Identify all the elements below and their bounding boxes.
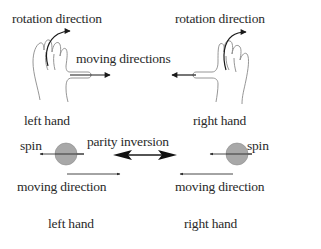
left-rotation-label: rotation direction	[12, 12, 102, 26]
right-hand-icon	[193, 41, 249, 104]
left-hand-icon	[33, 40, 91, 102]
left-spin-label: spin	[20, 139, 42, 153]
right-moving-direction-label: moving direction	[175, 180, 264, 194]
left-hand-label: left hand	[24, 114, 70, 128]
right-spin-label: spin	[247, 139, 269, 153]
left-moving-direction-label: moving direction	[17, 180, 106, 194]
right-hand-bottom-label: right hand	[184, 217, 237, 231]
parity-inversion-label: parity inversion	[87, 135, 169, 149]
moving-directions-label: moving directions	[76, 52, 170, 66]
parity-double-arrow	[113, 150, 177, 160]
right-hand-label: right hand	[193, 114, 246, 128]
right-rotation-label: rotation direction	[175, 12, 265, 26]
left-hand-bottom-label: left hand	[48, 217, 94, 231]
